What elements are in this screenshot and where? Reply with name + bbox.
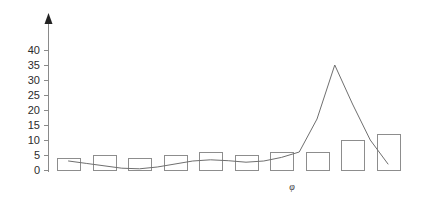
- bar: [342, 141, 365, 171]
- y-axis: [45, 13, 53, 172]
- chart-plot-area: 0510152025303540 φ: [0, 0, 428, 200]
- line-series: [69, 65, 389, 169]
- bar: [377, 135, 400, 171]
- bar-series: [58, 135, 401, 171]
- bar: [93, 156, 116, 171]
- y-tick-label: 20: [28, 104, 40, 116]
- y-axis-arrow-icon: [45, 13, 53, 24]
- bar: [306, 153, 329, 171]
- bar: [235, 156, 258, 171]
- bar: [200, 153, 223, 171]
- y-tick-label: 5: [34, 149, 40, 161]
- y-tick-label: 0: [34, 164, 40, 176]
- y-tick-label: 25: [28, 89, 40, 101]
- y-tick-label: 35: [28, 59, 40, 71]
- y-tick-label: 10: [28, 134, 40, 146]
- bar: [58, 159, 81, 171]
- chart-container: 0510152025303540 φ: [0, 0, 428, 200]
- y-tick-label: 30: [28, 74, 40, 86]
- y-tick-label: 15: [28, 119, 40, 131]
- y-axis-ticks: 0510152025303540: [28, 44, 49, 176]
- y-tick-label: 40: [28, 44, 40, 56]
- x-axis-label: φ: [289, 181, 295, 192]
